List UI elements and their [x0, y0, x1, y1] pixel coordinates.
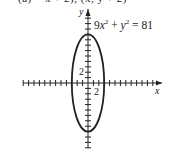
y-arrow-icon	[86, 9, 91, 16]
x-tick-label-2: 2	[94, 86, 99, 97]
x-axis-label: x	[155, 85, 159, 96]
equation-label: 9x2 + y2 = 81	[94, 18, 153, 31]
y-tick-label-2: 2	[79, 66, 84, 77]
y-axis-label: y	[79, 6, 83, 17]
